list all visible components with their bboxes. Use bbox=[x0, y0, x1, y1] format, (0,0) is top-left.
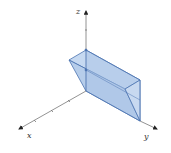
y-axis bbox=[140, 121, 157, 129]
y-label: y bbox=[143, 132, 149, 141]
x-label: x bbox=[27, 131, 32, 140]
x-axis bbox=[19, 91, 86, 129]
prism-diagram: z x y bbox=[0, 0, 171, 153]
z-label: z bbox=[75, 7, 81, 16]
prism bbox=[69, 49, 140, 121]
